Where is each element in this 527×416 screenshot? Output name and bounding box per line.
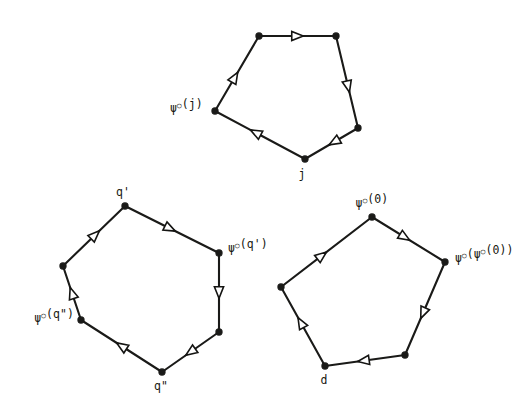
label-j: j [298, 167, 305, 181]
top-pentagon-vertex-t1[interactable] [333, 33, 339, 39]
label-d: d [320, 373, 327, 387]
top-pentagon-vertex-t2[interactable] [355, 125, 361, 131]
diagram-canvas: ψ○(j)jq'ψ○(q')ψ○(q")q"ψ○(0)ψ○(ψ○(0))d [0, 0, 527, 416]
diagram-background [0, 0, 527, 416]
bottom-right-pentagon-vertex-p4[interactable] [278, 284, 284, 290]
bottom-right-pentagon-vertex-p1[interactable] [442, 259, 448, 265]
top-pentagon-vertex-t3[interactable] [302, 156, 308, 162]
bottom-left-hexagon-vertex-h4[interactable] [78, 317, 84, 323]
top-pentagon-vertex-t0[interactable] [256, 33, 262, 39]
bottom-left-hexagon-vertex-h2[interactable] [216, 329, 222, 335]
bottom-left-hexagon-vertex-h1[interactable] [216, 250, 222, 256]
bottom-left-hexagon-vertex-h0[interactable] [122, 203, 128, 209]
bottom-right-pentagon-vertex-p3[interactable] [322, 363, 328, 369]
label-q-prime: q' [116, 185, 130, 199]
bottom-right-pentagon-vertex-p0[interactable] [369, 214, 375, 220]
bottom-right-pentagon-vertex-p2[interactable] [402, 352, 408, 358]
bottom-left-hexagon-vertex-h3[interactable] [159, 369, 165, 375]
label-q-double-prime: q" [154, 379, 168, 393]
bottom-left-hexagon-vertex-h5[interactable] [60, 263, 66, 269]
top-pentagon-vertex-t4[interactable] [212, 108, 218, 114]
